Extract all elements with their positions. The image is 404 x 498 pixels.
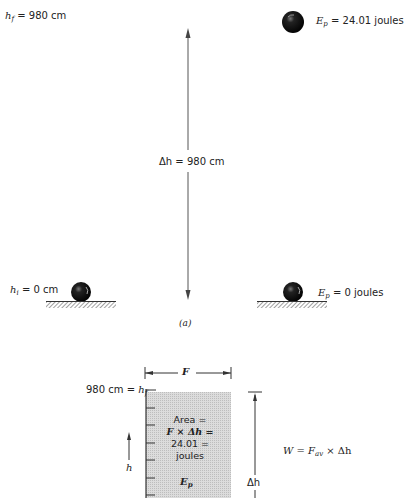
ep-bottom-value: = 0 joules bbox=[333, 287, 383, 298]
delta-h-right-label: Δh bbox=[247, 477, 260, 488]
h-final-label: hf = 980 cm bbox=[5, 10, 66, 23]
ground-left-icon bbox=[46, 302, 116, 309]
height-final-label: 980 cm = hf bbox=[86, 384, 147, 397]
part-a-caption: (a) bbox=[179, 318, 191, 328]
ground-right-icon bbox=[257, 302, 327, 309]
ep-top-sub: p bbox=[323, 20, 327, 28]
h-arrow-label: h bbox=[126, 462, 132, 473]
area-line-2: F × Δh = bbox=[160, 426, 220, 438]
area-energy-sub: p bbox=[188, 480, 193, 489]
ep-top-label: Ep = 24.01 joules bbox=[316, 15, 404, 28]
h-initial-value: = 0 cm bbox=[22, 284, 58, 295]
ball-bottom-right-icon bbox=[283, 282, 303, 302]
area-text-block: Area = F × Δh = 24.01 = joules bbox=[160, 414, 220, 462]
area-energy-var: E bbox=[180, 476, 188, 487]
area-line-3: 24.01 = bbox=[160, 438, 220, 450]
height-final-sub: f bbox=[145, 389, 148, 397]
height-final-value: 980 cm = bbox=[86, 384, 135, 395]
h-final-sub: f bbox=[11, 15, 14, 23]
h-initial-label: hi = 0 cm bbox=[10, 284, 58, 297]
delta-h-label: Δh = 980 cm bbox=[159, 156, 224, 167]
ep-top-value: = 24.01 joules bbox=[331, 15, 404, 26]
work-formula-sub: av bbox=[315, 450, 323, 458]
h-initial-sub: i bbox=[16, 289, 18, 297]
work-formula-suffix: × Δh bbox=[323, 445, 351, 456]
ball-top-icon bbox=[282, 11, 304, 33]
area-line-4: joules bbox=[160, 450, 220, 462]
area-energy-label: Ep bbox=[180, 476, 193, 489]
ball-bottom-left-icon bbox=[71, 282, 91, 302]
h-final-value: = 980 cm bbox=[17, 10, 66, 21]
ep-bottom-sub: p bbox=[325, 292, 329, 300]
work-formula-prefix: W = F bbox=[283, 445, 315, 456]
force-label: F bbox=[182, 366, 189, 377]
h-up-arrow bbox=[127, 432, 131, 460]
ep-bottom-label: Ep = 0 joules bbox=[318, 287, 383, 300]
work-formula: W = Fav × Δh bbox=[283, 445, 352, 458]
area-line-1: Area = bbox=[160, 414, 220, 426]
